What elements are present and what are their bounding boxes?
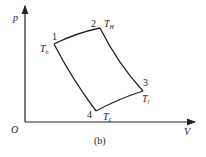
figure-caption: (b) <box>94 135 106 147</box>
process-3-4 <box>96 91 143 111</box>
point-1-label: 1 <box>52 31 57 42</box>
process-4-1 <box>54 44 96 111</box>
point-1-temp: Th <box>40 43 49 55</box>
process-2-3 <box>100 28 143 91</box>
point-4-label: 4 <box>87 109 92 120</box>
point-2-temp: TH <box>104 18 115 30</box>
point-2-label: 2 <box>91 18 96 29</box>
pv-diagram: p V O 1 Th 2 TH 3 Tl 4 TL (b) <box>0 0 206 157</box>
point-3-temp: Tl <box>142 93 150 105</box>
point-3-label: 3 <box>143 77 148 88</box>
process-1-2 <box>54 28 100 44</box>
x-axis-label: V <box>184 126 192 137</box>
point-4-temp: TL <box>103 111 113 123</box>
y-axis-label: p <box>12 12 18 23</box>
origin-label: O <box>11 124 18 135</box>
